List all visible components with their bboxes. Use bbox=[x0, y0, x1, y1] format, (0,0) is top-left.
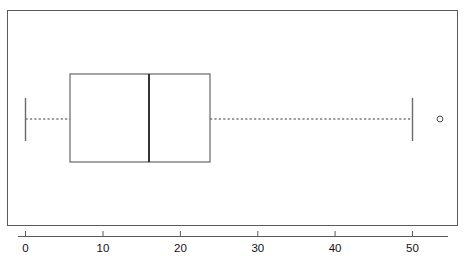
x-tick-label-0: 0 bbox=[22, 242, 28, 254]
x-tick-label-40: 40 bbox=[329, 242, 342, 254]
box-iqr bbox=[70, 74, 210, 162]
x-tick-label-30: 30 bbox=[251, 242, 264, 254]
boxplot-figure: 0 10 20 30 40 50 bbox=[0, 0, 465, 261]
x-axis-tick-labels: 0 10 20 30 40 50 bbox=[22, 242, 419, 254]
boxplot-screenshot: 0 10 20 30 40 50 bbox=[0, 0, 465, 261]
x-tick-label-10: 10 bbox=[97, 242, 110, 254]
x-axis-ticks bbox=[26, 231, 413, 237]
x-tick-label-20: 20 bbox=[174, 242, 187, 254]
x-tick-label-50: 50 bbox=[406, 242, 419, 254]
